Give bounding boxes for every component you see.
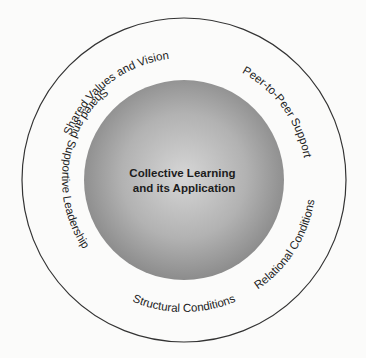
center-line-2: and its Application [133, 182, 235, 194]
center-line-1: Collective Learning [129, 167, 235, 179]
ring-label-structural: Structural Conditions [131, 292, 237, 314]
plc-diagram: Collective Learning and its Application … [0, 0, 366, 358]
inner-circle [84, 80, 284, 280]
